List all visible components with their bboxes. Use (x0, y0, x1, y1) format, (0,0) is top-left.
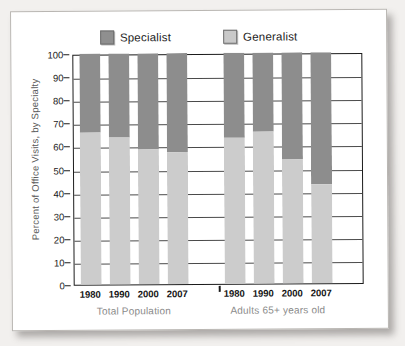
y-axis-tick-label: 50 (53, 165, 64, 176)
y-axis-tick-mark (65, 285, 71, 286)
bar-segment-generalist (224, 138, 246, 284)
bar-segment-specialist (79, 54, 100, 133)
x-axis-tick-label: 2000 (282, 287, 303, 298)
bar-segment-generalist (80, 132, 102, 285)
bar-segment-specialist (252, 53, 273, 132)
y-axis-tick-label: 10 (54, 257, 65, 268)
bar (79, 54, 101, 285)
x-axis-tick-label: 1990 (253, 288, 274, 299)
generalist-swatch-icon (223, 30, 237, 44)
legend-item-specialist: Specialist (100, 30, 171, 44)
scanned-page: Specialist Generalist Percent of Office … (10, 9, 389, 331)
x-axis-tick-label: 1980 (80, 289, 101, 300)
y-axis-tick-label: 40 (54, 188, 65, 199)
y-axis-tick-label: 70 (53, 119, 64, 130)
legend-item-generalist: Generalist (223, 29, 298, 43)
y-axis-tick-mark (63, 77, 69, 78)
bar (223, 53, 245, 284)
y-axis-tick-label: 30 (54, 211, 65, 222)
x-axis-tick-label: 1990 (109, 288, 130, 299)
bar-segment-generalist (311, 184, 333, 283)
bar-segment-generalist (167, 152, 189, 284)
bar-segment-specialist (281, 52, 303, 160)
y-axis-tick-label: 100 (47, 49, 63, 60)
y-axis-tick-label: 90 (53, 72, 64, 83)
bar-segment-specialist (137, 53, 159, 149)
chart-legend: Specialist Generalist (11, 26, 386, 48)
legend-label-specialist: Specialist (120, 31, 171, 43)
y-axis-tick-mark (65, 262, 71, 263)
bar (281, 52, 303, 283)
y-axis-tick-mark (64, 239, 70, 240)
x-axis-group-label: Adults 65+ years old (230, 304, 325, 316)
y-axis-tick-mark (64, 124, 70, 125)
bar-segment-generalist (138, 149, 160, 284)
y-axis-tick-mark (64, 193, 70, 194)
y-axis-tick-label: 20 (54, 234, 65, 245)
y-axis-tick-mark (64, 147, 70, 148)
bar-segment-generalist (282, 160, 304, 284)
bar-segment-specialist (223, 53, 245, 139)
bar (310, 52, 332, 283)
y-axis-tick-label: 60 (53, 142, 64, 153)
x-axis-group-label: Total Population (97, 305, 171, 316)
bar (108, 53, 130, 284)
bar (137, 53, 159, 284)
bar (166, 53, 188, 284)
y-axis-tick-mark (64, 170, 70, 171)
chart-container: Specialist Generalist Percent of Office … (11, 10, 388, 330)
x-axis-tick-label: 2000 (138, 288, 159, 299)
y-axis-tick-mark (63, 54, 69, 55)
legend-label-generalist: Generalist (243, 30, 297, 42)
bar-segment-generalist (109, 138, 131, 285)
bar (252, 53, 274, 284)
y-axis-tick-labels: 1009080706050403020100 (41, 55, 70, 286)
plot-area (72, 53, 363, 286)
bar-segment-generalist (253, 131, 275, 284)
y-axis-tick-mark (64, 100, 70, 101)
bar-segment-specialist (108, 53, 130, 137)
specialist-swatch-icon (100, 31, 114, 45)
x-axis-group-labels: Total PopulationAdults 65+ years old (74, 304, 364, 322)
y-axis-title: Percent of Office Visits, by Specialty (29, 59, 41, 259)
x-axis-tick-label: 1980 (224, 288, 245, 299)
bar-segment-specialist (166, 53, 188, 152)
x-axis-tick-labels: 19801990200020071980199020002007 (74, 287, 364, 303)
y-axis-tick-mark (64, 216, 70, 217)
bar-segment-specialist (310, 52, 332, 184)
x-axis-tick-label: 2007 (311, 287, 332, 298)
y-axis-tick-label: 80 (53, 96, 64, 107)
x-axis-tick-label: 2007 (167, 288, 188, 299)
